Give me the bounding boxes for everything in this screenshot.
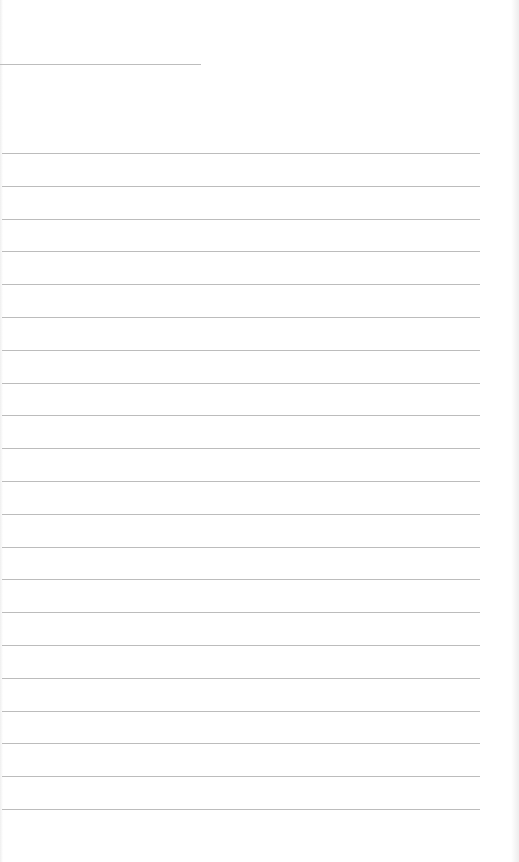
ruled-line: [2, 579, 480, 580]
ruled-line: [2, 350, 480, 351]
ruled-line: [2, 186, 480, 187]
ruled-line: [2, 448, 480, 449]
notepad-page: [0, 0, 519, 862]
ruled-line: [2, 612, 480, 613]
ruled-line: [2, 743, 480, 744]
page-right-edge: [511, 0, 519, 862]
ruled-line: [2, 514, 480, 515]
ruled-line: [2, 153, 480, 154]
ruled-line: [2, 809, 480, 810]
page-left-edge: [0, 0, 3, 862]
ruled-line: [2, 547, 480, 548]
header-line: [0, 64, 201, 65]
ruled-line: [2, 251, 480, 252]
ruled-line: [2, 415, 480, 416]
ruled-line: [2, 481, 480, 482]
ruled-line: [2, 317, 480, 318]
ruled-line: [2, 284, 480, 285]
ruled-line: [2, 383, 480, 384]
ruled-line: [2, 711, 480, 712]
ruled-line: [2, 645, 480, 646]
ruled-line: [2, 678, 480, 679]
ruled-line: [2, 219, 480, 220]
ruled-line: [2, 776, 480, 777]
